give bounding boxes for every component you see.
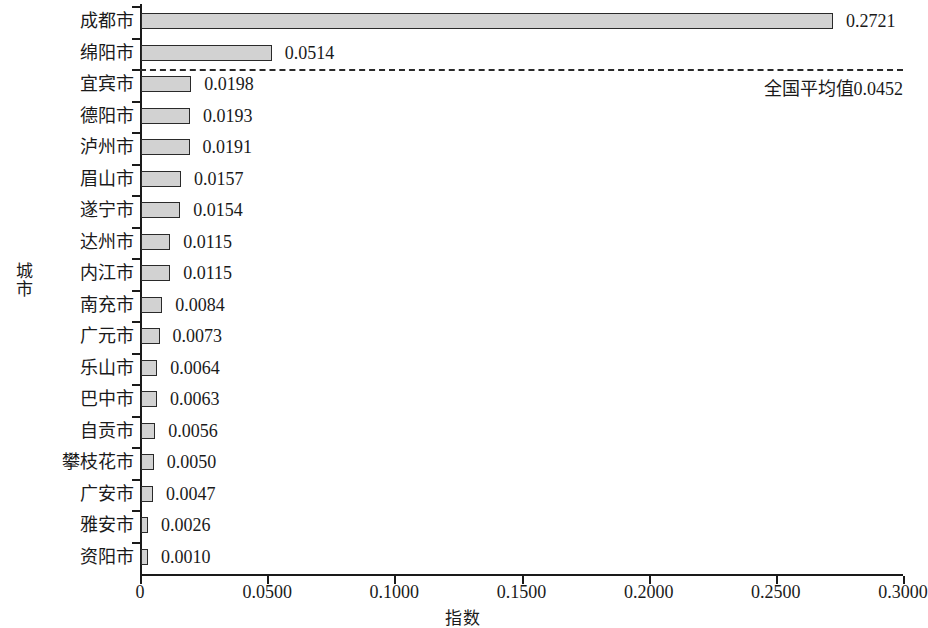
bar — [141, 549, 148, 565]
bar-row: 眉山市0.0157 — [140, 164, 903, 196]
bar-value-label: 0.0157 — [194, 164, 244, 196]
bar-row: 乐山市0.0064 — [140, 353, 903, 385]
bar — [141, 297, 162, 313]
bar-value-label: 0.0063 — [170, 384, 220, 416]
bar — [141, 517, 148, 533]
bar — [141, 423, 155, 439]
bar — [141, 45, 272, 61]
category-label: 雅安市 — [80, 510, 134, 542]
category-label: 德阳市 — [80, 101, 134, 133]
bar-row: 广元市0.0073 — [140, 321, 903, 353]
bar-value-label: 0.0191 — [203, 132, 253, 164]
category-label: 成都市 — [80, 6, 134, 38]
bar-row: 内江市0.0115 — [140, 258, 903, 290]
category-label: 自贡市 — [80, 416, 134, 448]
bar-row: 泸州市0.0191 — [140, 132, 903, 164]
bar — [141, 328, 160, 344]
x-axis-tick-label: 0.3000 — [878, 582, 928, 603]
bar-value-label: 0.0026 — [161, 510, 211, 542]
bar-value-label: 0.0084 — [175, 290, 225, 322]
x-axis-tick-label: 0.2500 — [751, 582, 801, 603]
bar-value-label: 0.0514 — [285, 38, 335, 70]
bar-row: 德阳市0.0193 — [140, 101, 903, 133]
x-axis-tick-label: 0.0500 — [242, 582, 292, 603]
x-axis-tick-label: 0 — [136, 582, 145, 603]
category-label: 资阳市 — [80, 542, 134, 574]
bar-row: 雅安市0.0026 — [140, 510, 903, 542]
bar — [141, 13, 833, 29]
category-label: 乐山市 — [80, 353, 134, 385]
category-label: 达州市 — [80, 227, 134, 259]
x-axis-tick-label: 0.1000 — [370, 582, 420, 603]
category-label: 广安市 — [80, 479, 134, 511]
bar-value-label: 0.0050 — [167, 447, 217, 479]
bar-row: 绵阳市0.0514 — [140, 38, 903, 70]
bar-value-label: 0.0047 — [166, 479, 216, 511]
bar-value-label: 0.0115 — [183, 227, 232, 259]
category-label: 遂宁市 — [80, 195, 134, 227]
x-axis-tick-label: 0.2000 — [624, 582, 674, 603]
bar-row: 巴中市0.0063 — [140, 384, 903, 416]
bar-value-label: 0.0056 — [168, 416, 218, 448]
bar — [141, 139, 190, 155]
category-label: 绵阳市 — [80, 38, 134, 70]
category-label: 泸州市 — [80, 132, 134, 164]
bar — [141, 108, 190, 124]
bar — [141, 360, 157, 376]
x-axis-title: 指数 — [0, 604, 926, 628]
national-average-line — [140, 69, 903, 71]
bar-row: 达州市0.0115 — [140, 227, 903, 259]
bar — [141, 454, 154, 470]
bar-value-label: 0.0115 — [183, 258, 232, 290]
bar-row: 资阳市0.0010 — [140, 542, 903, 574]
bar — [141, 391, 157, 407]
bar — [141, 234, 170, 250]
bar-row: 攀枝花市0.0050 — [140, 447, 903, 479]
bar-value-label: 0.0064 — [170, 353, 220, 385]
bar — [141, 76, 191, 92]
bar-value-label: 0.2721 — [846, 6, 896, 38]
national-average-label: 全国平均值0.0452 — [764, 74, 904, 100]
category-label: 宜宾市 — [80, 69, 134, 101]
plot-area: 成都市0.2721绵阳市0.0514宜宾市0.0198德阳市0.0193泸州市0… — [140, 4, 903, 576]
bar-row: 南充市0.0084 — [140, 290, 903, 322]
x-axis-tick-label: 0.1500 — [497, 582, 547, 603]
bar-value-label: 0.0073 — [173, 321, 223, 353]
bar — [141, 486, 153, 502]
category-label: 内江市 — [80, 258, 134, 290]
bar-row: 成都市0.2721 — [140, 6, 903, 38]
bar-value-label: 0.0198 — [204, 69, 254, 101]
category-label: 巴中市 — [80, 384, 134, 416]
y-axis-title: 城市 — [8, 0, 38, 560]
bar — [141, 265, 170, 281]
bar — [141, 202, 180, 218]
bar — [141, 171, 181, 187]
bar-value-label: 0.0010 — [161, 542, 211, 574]
bar-row: 遂宁市0.0154 — [140, 195, 903, 227]
bar-value-label: 0.0154 — [193, 195, 243, 227]
category-label: 南充市 — [80, 290, 134, 322]
bar-value-label: 0.0193 — [203, 101, 253, 133]
category-label: 眉山市 — [80, 164, 134, 196]
bar-row: 广安市0.0047 — [140, 479, 903, 511]
bar-row: 自贡市0.0056 — [140, 416, 903, 448]
category-label: 攀枝花市 — [62, 447, 134, 479]
category-label: 广元市 — [80, 321, 134, 353]
